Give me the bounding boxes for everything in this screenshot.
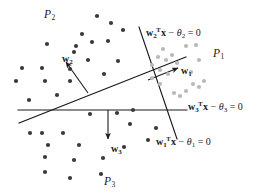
- data-point: [20, 66, 24, 70]
- region-P1-points: [150, 43, 206, 98]
- data-point: [101, 156, 105, 160]
- normal-vector-arrow-w2: [66, 62, 88, 93]
- data-point: [131, 108, 135, 112]
- data-point: [128, 122, 132, 126]
- region-P2-points: [14, 14, 125, 102]
- data-point: [14, 79, 18, 83]
- boundary-line-w1: [139, 27, 177, 139]
- data-point: [99, 172, 103, 176]
- data-point: [77, 143, 81, 147]
- data-point: [68, 79, 72, 83]
- data-point: [68, 176, 72, 180]
- data-point: [156, 55, 160, 59]
- data-point: [170, 53, 174, 57]
- data-point: [109, 21, 113, 25]
- data-point: [43, 79, 47, 83]
- data-point: [146, 138, 150, 142]
- data-point: [106, 39, 110, 43]
- data-point: [172, 91, 176, 95]
- data-point: [80, 32, 84, 36]
- data-point: [74, 44, 78, 48]
- data-point: [194, 43, 198, 47]
- data-point: [43, 170, 47, 174]
- region-P3-points: [28, 108, 158, 180]
- data-point: [72, 50, 76, 54]
- data-point: [68, 67, 72, 71]
- data-point: [45, 42, 49, 46]
- data-point: [158, 82, 162, 86]
- data-point: [202, 79, 206, 83]
- data-point: [166, 72, 170, 76]
- data-point: [122, 145, 126, 149]
- data-point: [46, 143, 50, 147]
- data-point: [88, 112, 92, 116]
- data-point: [95, 14, 99, 18]
- data-point: [184, 44, 188, 48]
- data-point: [86, 58, 90, 62]
- data-point: [161, 47, 165, 51]
- data-point: [102, 72, 106, 76]
- data-point: [197, 58, 201, 62]
- data-point: [27, 98, 31, 102]
- data-points-group: [14, 14, 206, 180]
- normal-vectors-group: [66, 62, 178, 139]
- data-point: [189, 70, 193, 74]
- data-point: [150, 63, 154, 67]
- data-point: [115, 111, 119, 115]
- hyperplane-diagram: P2P1P3w2w1w3w2Tx − θ2 = 0w3Tx − θ3 = 0w1…: [0, 0, 266, 194]
- data-point: [154, 126, 158, 130]
- diagram-canvas: [0, 0, 266, 194]
- data-point: [90, 40, 94, 44]
- data-point: [158, 68, 162, 72]
- data-point: [164, 58, 168, 62]
- data-point: [61, 131, 65, 135]
- data-point: [121, 28, 125, 32]
- data-point: [40, 131, 44, 135]
- data-point: [175, 61, 179, 65]
- data-point: [116, 59, 120, 63]
- data-point: [40, 66, 44, 70]
- data-point: [178, 94, 182, 98]
- data-point: [184, 89, 188, 93]
- data-point: [55, 93, 59, 97]
- data-point: [191, 82, 195, 86]
- data-point: [150, 76, 154, 80]
- data-point: [197, 85, 201, 89]
- data-point: [72, 158, 76, 162]
- data-point: [43, 155, 47, 159]
- data-point: [28, 131, 32, 135]
